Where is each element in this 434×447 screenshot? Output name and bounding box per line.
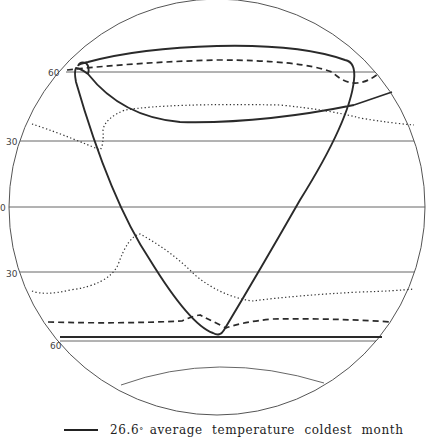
legend: 26.6° average temperature coldest month <box>64 423 403 437</box>
legend-value: 26.6 <box>110 423 139 437</box>
latitude-label-60n: 60 <box>48 68 60 78</box>
dashed-line-south <box>48 315 392 328</box>
dotted-line-south <box>32 234 414 301</box>
latitude-label-equator: 0 <box>0 203 6 213</box>
climate-diagram: 60 30 0 30 60 <box>0 0 434 447</box>
legend-label: average temperature coldest month <box>150 423 404 437</box>
legend-solid-line-icon <box>64 429 98 431</box>
continent-outline <box>75 46 354 335</box>
latitude-label-60s: 60 <box>50 341 62 351</box>
legend-degree-mark: ° <box>139 426 144 435</box>
latitude-label-30n: 30 <box>6 137 18 147</box>
polar-arc-south <box>121 367 324 385</box>
globe-outline <box>9 0 425 415</box>
northern-boundary-east <box>354 92 392 105</box>
latitude-label-30s: 30 <box>6 269 18 279</box>
dashed-line-north <box>67 60 378 83</box>
latitude-lines <box>8 72 426 341</box>
